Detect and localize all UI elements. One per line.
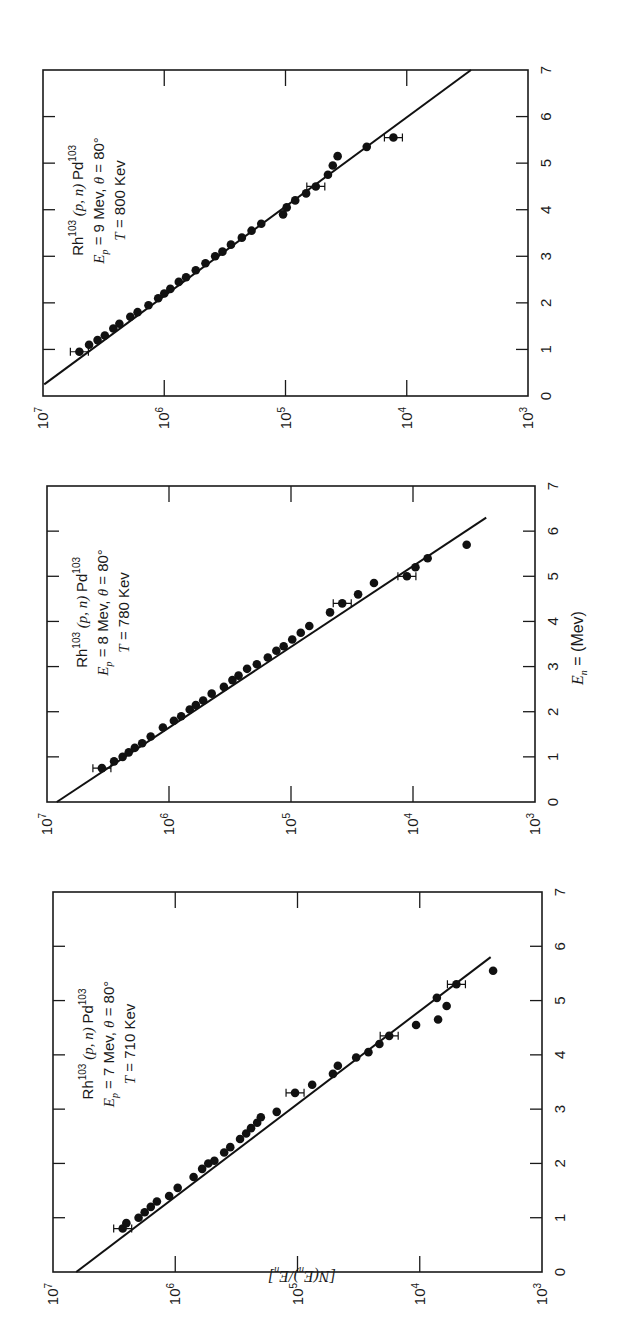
data-point bbox=[272, 1108, 281, 1117]
data-point bbox=[166, 285, 175, 294]
data-point bbox=[354, 590, 363, 599]
data-point bbox=[191, 266, 200, 275]
y-tick-label: 106 bbox=[159, 812, 177, 835]
x-tick-label: 4 bbox=[551, 1051, 568, 1059]
temperature-label: T = 780 Kev bbox=[115, 572, 132, 653]
data-point bbox=[279, 642, 288, 651]
data-point bbox=[324, 170, 333, 179]
data-point bbox=[243, 665, 252, 674]
data-point bbox=[189, 1173, 198, 1182]
data-point bbox=[253, 660, 262, 669]
data-point bbox=[173, 1184, 182, 1193]
data-point bbox=[238, 233, 247, 242]
data-point bbox=[434, 1015, 443, 1024]
data-point bbox=[288, 635, 297, 644]
y-tick-label: 104 bbox=[410, 1282, 428, 1305]
x-tick-label: 0 bbox=[544, 798, 561, 806]
data-point bbox=[302, 189, 311, 198]
data-point bbox=[220, 683, 229, 692]
y-tick-label: 106 bbox=[154, 406, 172, 429]
data-point bbox=[138, 739, 147, 748]
panel-annotation: Rh103 (p, n) Pd103Ep = 9 Mev, θ = 80°T =… bbox=[67, 137, 128, 265]
data-point bbox=[218, 247, 227, 256]
data-point bbox=[165, 1192, 174, 1201]
data-point bbox=[207, 689, 216, 698]
data-point bbox=[334, 1061, 343, 1070]
panel-ep-9-mev: 01234567107106105104103Rh103 (p, n) Pd10… bbox=[33, 66, 554, 429]
data-point bbox=[326, 608, 335, 617]
y-tick-label: 107 bbox=[33, 406, 51, 429]
fit-line bbox=[76, 957, 490, 1272]
data-point bbox=[264, 653, 273, 662]
data-point bbox=[153, 1197, 162, 1206]
data-point bbox=[126, 313, 135, 322]
x-tick-label: 2 bbox=[551, 1159, 568, 1167]
x-tick-label: 7 bbox=[544, 482, 561, 490]
y-tick-label: 104 bbox=[397, 406, 415, 429]
x-tick-label: 2 bbox=[544, 708, 561, 716]
x-tick-label: 5 bbox=[551, 996, 568, 1004]
x-tick-label: 2 bbox=[537, 299, 554, 307]
x-axis-label: En = (Mev) bbox=[569, 611, 589, 686]
data-point bbox=[328, 161, 337, 170]
data-point bbox=[296, 628, 305, 637]
y-axis-label: [N(En)/En] bbox=[268, 1265, 336, 1285]
data-point bbox=[411, 563, 420, 572]
data-point bbox=[272, 646, 281, 655]
x-tick-label: 7 bbox=[551, 888, 568, 896]
x-tick-label: 3 bbox=[544, 662, 561, 670]
data-point bbox=[257, 219, 266, 228]
data-point bbox=[247, 226, 256, 235]
data-point bbox=[352, 1053, 361, 1062]
data-point bbox=[489, 966, 498, 975]
data-point bbox=[115, 320, 124, 329]
data-point bbox=[364, 1048, 373, 1057]
beam-energy-label: Ep = 7 Mev, θ = 80° bbox=[100, 981, 120, 1109]
data-point bbox=[133, 308, 142, 317]
data-point bbox=[122, 1219, 131, 1228]
data-point bbox=[433, 994, 442, 1003]
data-point bbox=[442, 1002, 451, 1011]
data-point bbox=[159, 723, 168, 732]
panel-ep-7-mev: 01234567107106105104103Rh103 (p, n) Pd10… bbox=[43, 888, 568, 1305]
x-tick-label: 5 bbox=[537, 159, 554, 167]
panel-ep-8-mev: 01234567107106105104103Rh103 (p, n) Pd10… bbox=[37, 482, 561, 835]
y-tick-label: 107 bbox=[37, 812, 55, 835]
x-tick-label: 6 bbox=[551, 942, 568, 950]
data-point bbox=[462, 540, 471, 549]
x-tick-label: 6 bbox=[537, 112, 554, 120]
x-tick-label: 1 bbox=[544, 753, 561, 761]
x-tick-label: 4 bbox=[544, 617, 561, 625]
data-point bbox=[211, 252, 220, 261]
data-point bbox=[175, 278, 184, 287]
data-point bbox=[101, 331, 110, 340]
x-tick-label: 3 bbox=[551, 1105, 568, 1113]
data-point bbox=[177, 712, 186, 721]
y-tick-label: 107 bbox=[43, 1282, 61, 1305]
data-point bbox=[170, 716, 179, 725]
data-point bbox=[308, 1080, 317, 1089]
y-tick-label: 103 bbox=[525, 812, 543, 835]
x-tick-label: 0 bbox=[537, 392, 554, 400]
data-point bbox=[282, 203, 291, 212]
data-point bbox=[131, 744, 140, 753]
data-point bbox=[291, 196, 300, 205]
x-tick-label: 5 bbox=[544, 572, 561, 580]
data-point bbox=[199, 696, 208, 705]
data-point bbox=[423, 554, 432, 563]
data-point bbox=[144, 301, 153, 310]
y-tick-label: 103 bbox=[532, 1282, 550, 1305]
data-point bbox=[305, 622, 314, 631]
panel-annotation: Rh103 (p, n) Pd103Ep = 8 Mev, θ = 80°T =… bbox=[71, 549, 132, 677]
data-point bbox=[227, 240, 236, 249]
y-tick-label: 106 bbox=[165, 1282, 183, 1305]
data-point bbox=[257, 1113, 266, 1122]
beam-energy-label: Ep = 8 Mev, θ = 80° bbox=[94, 549, 114, 677]
y-tick-label: 105 bbox=[281, 812, 299, 835]
data-point bbox=[234, 671, 243, 680]
data-point bbox=[375, 1040, 384, 1049]
data-point bbox=[362, 143, 371, 152]
x-tick-label: 3 bbox=[537, 252, 554, 260]
reaction-label: Rh103 (p, n) Pd103 bbox=[71, 557, 91, 668]
reaction-label: Rh103 (p, n) Pd103 bbox=[67, 145, 87, 256]
